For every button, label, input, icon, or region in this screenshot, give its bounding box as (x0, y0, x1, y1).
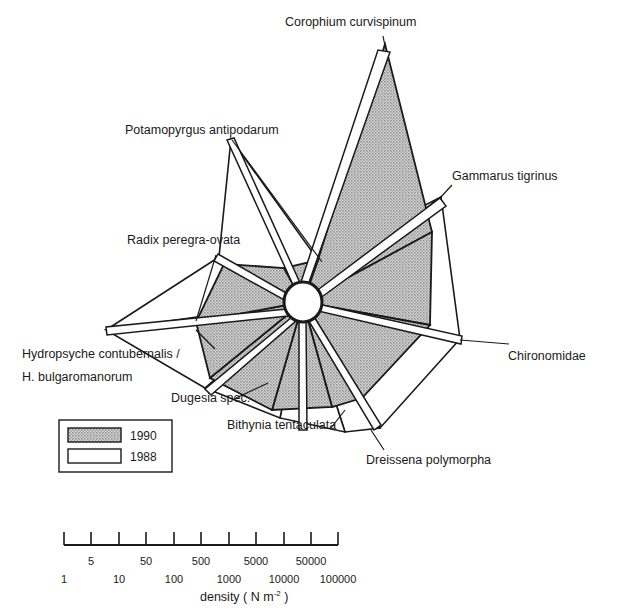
scale-value-5: 5 (88, 555, 94, 567)
center-hub (284, 282, 322, 322)
legend-swatch-1988 (68, 449, 121, 463)
scale-title-prefix: density ( N m (200, 590, 274, 604)
legend-swatch-1990 (68, 428, 121, 442)
label-corophium: Corophium curvispinum (285, 15, 416, 29)
scale-value-500: 500 (192, 555, 210, 567)
label-radix: Radix peregra-ovata (127, 233, 240, 247)
scale-value-5000: 5000 (244, 555, 268, 567)
scale-value-10: 10 (113, 573, 125, 585)
scale-value-1: 1 (61, 573, 67, 585)
scale-title-suffix: ) (281, 590, 289, 604)
label-hydropsyche-line1: Hydropsyche contubernalis / (22, 347, 180, 361)
label-hydropsyche-line2: H. bulgaromanorum (22, 370, 132, 384)
label-gammarus: Gammarus tigrinus (452, 169, 558, 183)
label-bithynia: Bithynia tentaculata (227, 418, 336, 432)
label-dreissena: Dreissena polymorpha (366, 453, 491, 467)
label-dugesia: Dugesia spec. (171, 391, 250, 405)
label-potamopyrgus: Potamopyrgus antipodarum (125, 123, 279, 137)
label-chironomidae: Chironomidae (508, 349, 586, 363)
scale-value-50: 50 (140, 555, 152, 567)
spoke-bithynia (299, 319, 307, 430)
legend: 1990 1988 (59, 420, 172, 472)
scale-value-50000: 50000 (296, 555, 327, 567)
legend-label-1988: 1988 (130, 450, 157, 464)
scale-value-10000: 10000 (269, 573, 300, 585)
scale-value-100: 100 (165, 573, 183, 585)
radar-figure: Corophium curvispinum Potamopyrgus antip… (0, 0, 628, 612)
scale-value-100000: 100000 (320, 573, 357, 585)
scale-value-1000: 1000 (217, 573, 241, 585)
legend-label-1990: 1990 (130, 429, 157, 443)
